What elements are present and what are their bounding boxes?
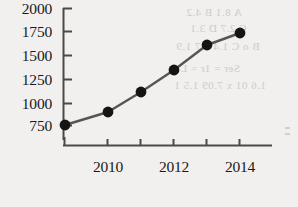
- data-point: [136, 87, 147, 98]
- data-series-line: [65, 33, 240, 125]
- data-point: [202, 40, 213, 51]
- data-point: [235, 28, 246, 39]
- data-point-markers: [60, 28, 246, 131]
- data-point: [169, 65, 180, 76]
- data-point: [103, 107, 114, 118]
- axis-arrow-remnant-icon: [285, 128, 290, 134]
- line-chart-figure: A 8.1 B 4.2 C 2.7 D 3.1 B o C 1.4 o 7 1.…: [0, 0, 298, 207]
- chart-plot-area: [0, 0, 298, 207]
- data-point: [60, 120, 71, 131]
